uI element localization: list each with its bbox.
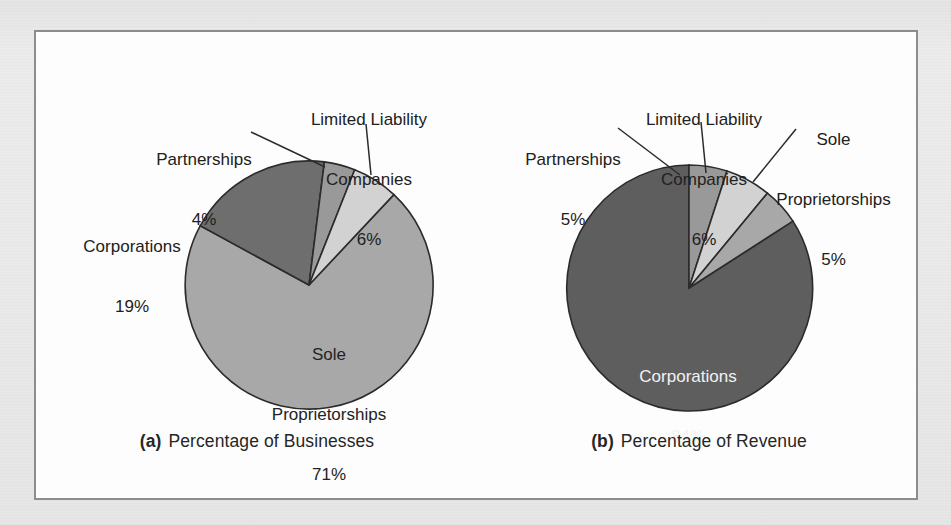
caption-businesses: (a)Percentage of Businesses: [36, 431, 478, 452]
label-partnerships-name: Partnerships: [114, 150, 294, 170]
caption-a-tag: (a): [140, 431, 162, 451]
label-partnerships-value: 5%: [483, 210, 663, 230]
label-sole-proprietorships: Sole Proprietorships 71%: [239, 305, 419, 525]
label-corporations-name: Corporations: [588, 367, 788, 387]
label-sole-proprietorships: Sole Proprietorships 5%: [746, 90, 921, 310]
caption-b-text: Percentage of Revenue: [621, 431, 807, 451]
label-llc-line2: Companies: [264, 170, 474, 190]
caption-a-text: Percentage of Businesses: [168, 431, 374, 451]
label-sole-line1: Sole: [746, 130, 921, 150]
label-llc-value: 6%: [264, 230, 474, 250]
pie-chart-revenue: Limited Liability Companies 6% Partnersh…: [478, 32, 920, 498]
label-llc-line1: Limited Liability: [264, 110, 474, 130]
label-corporations: Corporations 19%: [42, 197, 222, 357]
label-sole-line1: Sole: [239, 345, 419, 365]
label-corporations-value: 19%: [42, 297, 222, 317]
label-limited-liability-companies: Limited Liability Companies 6%: [264, 70, 474, 290]
caption-b-tag: (b): [591, 431, 614, 451]
label-sole-value: 71%: [239, 465, 419, 485]
pie-chart-businesses: Limited Liability Companies 6% Partnersh…: [36, 32, 478, 498]
label-partnerships: Partnerships 5%: [483, 110, 663, 270]
label-partnerships-name: Partnerships: [483, 150, 663, 170]
label-sole-line2: Proprietorships: [746, 190, 921, 210]
label-sole-line2: Proprietorships: [239, 405, 419, 425]
label-corporations-name: Corporations: [42, 237, 222, 257]
caption-revenue: (b)Percentage of Revenue: [478, 431, 920, 452]
figure-frame: Limited Liability Companies 6% Partnersh…: [34, 30, 918, 500]
label-corporations: Corporations 84%: [588, 327, 788, 487]
label-sole-value: 5%: [746, 250, 921, 270]
